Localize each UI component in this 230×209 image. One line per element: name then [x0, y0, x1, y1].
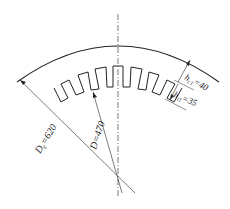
tooth-height-label: ht1=35 [172, 90, 199, 109]
d-arrow-icon [93, 92, 97, 98]
yoke-height-label: hc1=40 [183, 72, 211, 94]
dc-arrow-icon [20, 80, 26, 85]
inner-diameter-label: D=470 [87, 120, 107, 152]
outer-diameter-label: Dc=620 [32, 122, 61, 157]
stator-slot-diagram: Dc=620 D=470 hc1=40 ht1=35 [0, 0, 230, 209]
diagram-canvas: Dc=620 D=470 hc1=40 ht1=35 [0, 0, 230, 209]
